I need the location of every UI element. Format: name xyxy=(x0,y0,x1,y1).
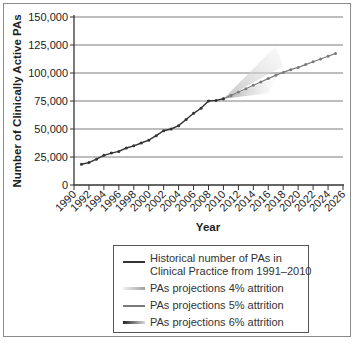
data-point xyxy=(327,55,330,58)
y-tick-label: 75,000 xyxy=(34,95,68,107)
data-point xyxy=(222,97,225,100)
data-point xyxy=(192,112,195,115)
data-point xyxy=(140,142,143,145)
legend-label-historical-line2: Clinical Practice from 1991–2010 xyxy=(150,265,311,278)
data-point xyxy=(132,144,135,147)
data-point xyxy=(297,66,300,69)
data-point xyxy=(125,147,128,150)
projection-bands xyxy=(223,46,283,99)
data-point xyxy=(312,60,315,63)
y-tick-label: 100,000 xyxy=(28,67,68,79)
y-axis-ticks: 025,00050,00075,000100,000125,000150,000 xyxy=(28,11,74,191)
data-point xyxy=(274,74,277,77)
legend-label-historical-line1: Historical number of PAs in xyxy=(150,252,311,265)
y-tick-label: 125,000 xyxy=(28,39,68,51)
y-tick-label: 25,000 xyxy=(34,151,68,163)
data-point xyxy=(304,63,307,66)
data-point xyxy=(244,87,247,90)
data-point xyxy=(214,99,217,102)
data-point xyxy=(252,84,255,87)
legend-swatch-5pct xyxy=(123,305,145,307)
data-point xyxy=(170,128,173,131)
y-tick-label: 0 xyxy=(62,179,68,191)
data-point xyxy=(259,80,262,83)
data-point xyxy=(155,134,158,137)
data-lines xyxy=(80,52,337,166)
data-point xyxy=(87,161,90,164)
data-point xyxy=(282,71,285,74)
legend-swatch-4pct xyxy=(123,287,145,290)
data-point xyxy=(237,91,240,94)
data-point xyxy=(319,58,322,61)
x-axis-title: Year xyxy=(196,221,221,233)
data-point xyxy=(110,152,113,155)
y-tick-label: 50,000 xyxy=(34,123,68,135)
data-point xyxy=(102,154,105,157)
data-point xyxy=(200,107,203,110)
data-point xyxy=(229,94,232,97)
legend-label-5pct: PAs projections 5% attrition xyxy=(150,299,284,312)
legend: Historical number of PAs in Clinical Pra… xyxy=(113,245,309,333)
legend-label-4pct: PAs projections 4% attrition xyxy=(150,282,284,295)
y-axis-title: Number of Clinically Active PAs xyxy=(11,14,23,187)
data-point xyxy=(177,124,180,127)
data-point xyxy=(334,52,337,55)
legend-label-6pct: PAs projections 6% attrition xyxy=(150,316,284,329)
legend-swatch-historical xyxy=(123,261,145,263)
gridlines xyxy=(74,17,343,157)
y-tick-label: 150,000 xyxy=(28,11,68,23)
data-point xyxy=(162,129,165,132)
data-point xyxy=(267,77,270,80)
data-point xyxy=(289,68,292,71)
data-point xyxy=(80,163,83,166)
data-point xyxy=(117,150,120,153)
data-point xyxy=(207,100,210,103)
data-point xyxy=(147,139,150,142)
data-point xyxy=(95,158,98,161)
legend-swatch-6pct xyxy=(123,321,145,324)
data-point xyxy=(185,118,188,121)
x-axis-ticks: 1990199219941996199820002002200420062008… xyxy=(53,185,348,214)
